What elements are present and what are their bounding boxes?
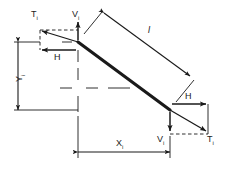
length-label: l: [148, 25, 151, 35]
horizontal-top-label: H: [54, 52, 61, 62]
horizontal-bottom-label: H: [185, 91, 192, 101]
inclined-member: [78, 42, 170, 110]
horizontal-projection-label: Xi: [116, 138, 123, 150]
length-dimension-line: [104, 13, 190, 76]
tension-top-label: Ti: [31, 9, 38, 21]
tension-bottom-arrow: [170, 110, 206, 131]
free-body-diagram: Ti Vi H l Yi: [0, 0, 235, 169]
length-extension-start: [84, 12, 102, 34]
shear-top-label: Vi: [72, 9, 79, 21]
tension-top-arrow: [42, 31, 78, 42]
diagram-canvas: Ti Vi H l Yi: [0, 0, 235, 169]
tension-bottom-label: Ti: [207, 134, 214, 146]
shear-bottom-label: Vi: [157, 134, 164, 146]
vertical-projection-label: Yi: [14, 75, 26, 82]
